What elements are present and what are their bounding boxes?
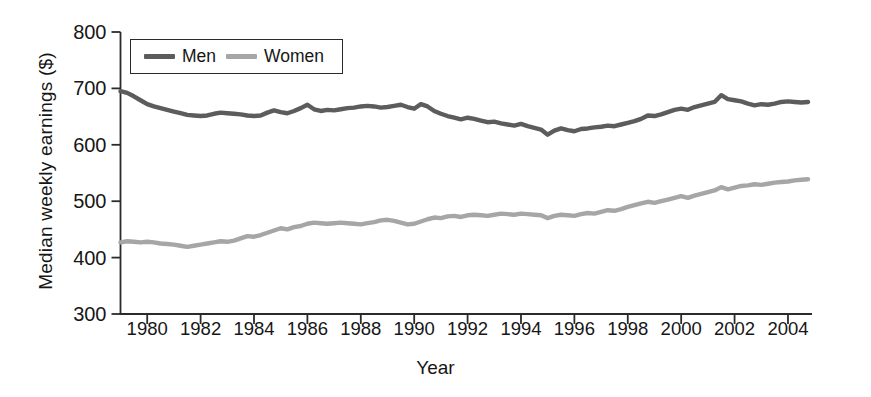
legend-label: Men xyxy=(182,46,216,67)
legend-swatch-icon xyxy=(144,54,175,60)
y-tick-label: 700 xyxy=(47,77,107,100)
legend-entry-women: Women xyxy=(226,46,324,67)
y-axis-title: Median weekly earnings ($) xyxy=(35,21,57,321)
y-tick-label: 300 xyxy=(47,303,107,326)
x-tick-label: 2004 xyxy=(753,318,823,340)
y-tick-label: 500 xyxy=(47,190,107,213)
chart-figure: Median weekly earnings ($) 3004005006007… xyxy=(0,0,871,397)
y-tick-label: 600 xyxy=(47,133,107,156)
legend-entry-men: Men xyxy=(144,46,216,67)
chart-legend: MenWomen xyxy=(130,39,343,74)
legend-swatch-icon xyxy=(226,54,257,60)
legend-label: Women xyxy=(264,46,324,67)
x-axis-title: Year xyxy=(0,357,871,379)
y-tick-label: 400 xyxy=(47,246,107,269)
y-tick-label: 800 xyxy=(47,21,107,44)
